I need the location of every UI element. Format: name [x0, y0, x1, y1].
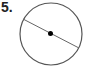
circle-diagram: [0, 0, 85, 71]
center-point: [48, 31, 53, 36]
